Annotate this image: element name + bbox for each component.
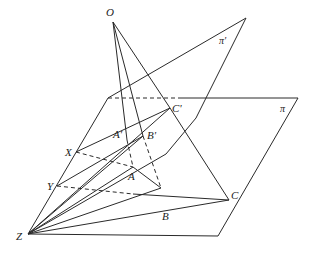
label-O: O	[106, 6, 114, 18]
triangle-base	[28, 152, 229, 234]
label-C-prime: C'	[172, 102, 182, 114]
label-B: B	[162, 210, 169, 222]
desargues-diagram: O π' π C' A' B' X Y A B C Z	[0, 0, 315, 255]
label-B-prime: B'	[147, 129, 157, 141]
label-X: X	[64, 146, 73, 158]
label-A: A	[127, 170, 135, 182]
label-pi-prime: π'	[219, 35, 227, 46]
label-Z: Z	[16, 230, 23, 242]
plane-pi-prime	[28, 18, 246, 234]
label-C: C	[231, 189, 239, 201]
label-A-prime: A'	[112, 128, 123, 140]
triangle-prime	[28, 108, 170, 234]
label-pi: π	[280, 103, 286, 114]
